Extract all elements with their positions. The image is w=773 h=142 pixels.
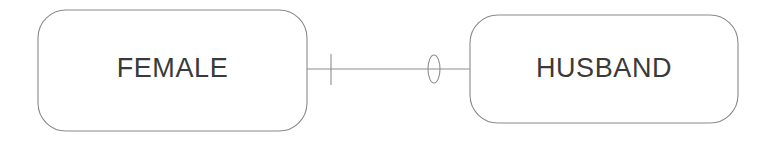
entity-female-label: FEMALE xyxy=(117,53,229,83)
relationship-connector[interactable] xyxy=(307,54,470,85)
entity-husband[interactable]: HUSBAND xyxy=(470,15,738,123)
entity-female[interactable]: FEMALE xyxy=(38,10,307,131)
er-diagram-svg: FEMALE HUSBAND xyxy=(0,0,773,142)
entity-husband-label: HUSBAND xyxy=(536,53,672,83)
er-diagram-canvas: FEMALE HUSBAND xyxy=(0,0,773,142)
